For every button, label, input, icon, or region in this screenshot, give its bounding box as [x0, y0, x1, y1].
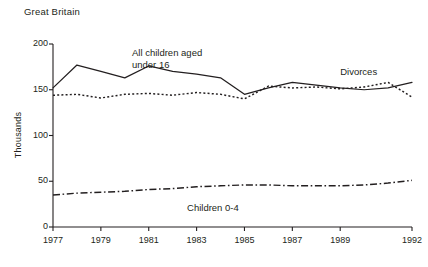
chart-plot-area: [0, 0, 428, 267]
series-line-2: [53, 180, 412, 195]
chart-container: Great Britain Thousands 200 150 100 50 0…: [0, 0, 428, 267]
series-line-0: [53, 65, 412, 94]
series-line-1: [53, 82, 412, 98]
